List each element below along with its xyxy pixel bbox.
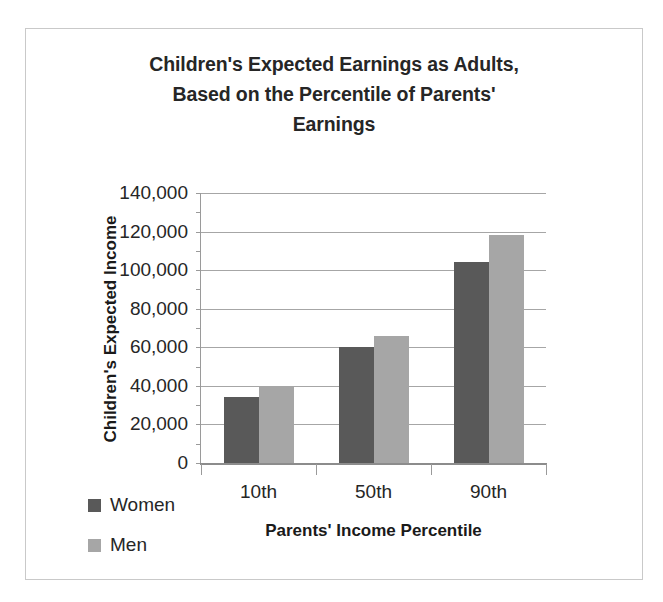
legend-label-men: Men xyxy=(110,534,147,556)
y-axis-tick-labels: 020,00040,00060,00080,000100,000120,0001… xyxy=(86,193,196,463)
bar-men-10th xyxy=(259,386,294,463)
chart-legend: WomenMen xyxy=(88,485,175,565)
chart-title: Children's Expected Earnings as Adults, … xyxy=(26,49,642,139)
legend-entry-women[interactable]: Women xyxy=(88,485,175,525)
bar-men-90th xyxy=(489,235,524,463)
x-category-label-10th: 10th xyxy=(199,481,319,503)
bar-women-90th xyxy=(454,262,489,463)
gridline-140000 xyxy=(201,193,546,194)
x-separator-tick xyxy=(201,464,202,475)
bar-men-50th xyxy=(374,336,409,463)
x-separator-tick xyxy=(431,464,432,475)
x-axis-title: Parents' Income Percentile xyxy=(201,521,546,541)
plot-area xyxy=(201,193,546,463)
x-category-label-90th: 90th xyxy=(429,481,549,503)
legend-entry-men[interactable]: Men xyxy=(88,525,175,565)
y-tick-label-140000: 140,000 xyxy=(119,182,188,204)
y-tick-label-80000: 80,000 xyxy=(130,298,188,320)
chart-figure-frame: Children's Expected Earnings as Adults, … xyxy=(25,28,643,580)
chart-title-line-3: Earnings xyxy=(26,109,642,139)
y-tick-label-120000: 120,000 xyxy=(119,221,188,243)
x-separator-tick xyxy=(316,464,317,475)
bar-women-10th xyxy=(224,397,259,463)
x-category-label-50th: 50th xyxy=(314,481,434,503)
y-tick-label-40000: 40,000 xyxy=(130,375,188,397)
legend-swatch-women-icon xyxy=(88,499,101,512)
bar-women-50th xyxy=(339,347,374,463)
y-tick-label-60000: 60,000 xyxy=(130,336,188,358)
chart-title-line-2: Based on the Percentile of Parents' xyxy=(26,79,642,109)
gridline-120000 xyxy=(201,232,546,233)
y-tick-label-0: 0 xyxy=(177,452,188,474)
chart-title-line-1: Children's Expected Earnings as Adults, xyxy=(26,49,642,79)
y-tick-label-20000: 20,000 xyxy=(130,413,188,435)
x-separator-tick xyxy=(546,464,547,475)
legend-swatch-men-icon xyxy=(88,539,101,552)
legend-label-women: Women xyxy=(110,494,175,516)
x-axis-line xyxy=(200,463,547,465)
y-tick-label-100000: 100,000 xyxy=(119,259,188,281)
